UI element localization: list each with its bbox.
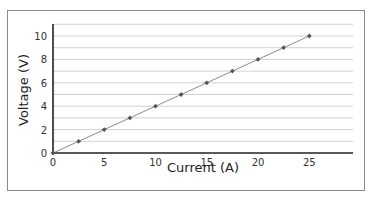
y-tick-label: 0: [41, 148, 47, 159]
x-tick-label: 20: [252, 157, 265, 168]
data-point: [153, 104, 158, 109]
data-point: [102, 127, 107, 132]
y-tick-label: 6: [41, 78, 47, 89]
gridlines: [53, 24, 353, 141]
y-tick-label: 10: [34, 31, 47, 42]
data-point: [307, 34, 312, 39]
x-axis-label: Current (A): [167, 160, 239, 175]
y-tick-labels: 0246810: [34, 31, 47, 159]
x-tick-label: 0: [50, 157, 56, 168]
y-tick-label: 8: [41, 54, 47, 65]
y-tick-label: 4: [41, 101, 47, 112]
data-point: [179, 92, 184, 97]
x-tick-label: 25: [303, 157, 316, 168]
line-chart: 0246810 0510152025 Current (A) Voltage (…: [0, 0, 371, 201]
data-point: [230, 69, 235, 74]
data-point: [281, 45, 286, 50]
x-tick-label: 10: [149, 157, 162, 168]
y-axis-label: Voltage (V): [16, 54, 31, 126]
data-point: [127, 116, 132, 121]
x-tick-label: 5: [101, 157, 107, 168]
data-point: [256, 57, 261, 62]
y-tick-label: 2: [41, 125, 47, 136]
data-point: [51, 151, 56, 156]
data-point: [76, 139, 81, 144]
data-point: [204, 80, 209, 85]
axes: [53, 24, 353, 153]
